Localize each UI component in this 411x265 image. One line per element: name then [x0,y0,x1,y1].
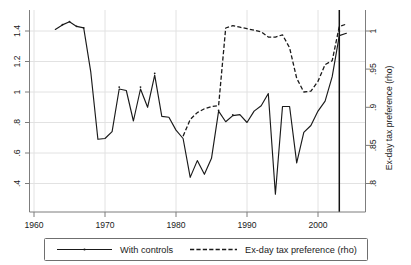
legend-label-with-controls: With controls [120,245,174,255]
chart-svg: 1.4 1.2 1 .8 .6 .4 1 .95 .9 .85 .8 Ex-da… [0,0,411,265]
data-point [69,21,71,23]
data-point [232,114,234,116]
chart-legend: With controls Ex-day tax preference (rho… [45,239,368,261]
secondary-y-axis-title: Ex-day tax preference (rho) [384,66,394,171]
y2tick-label: .85 [368,139,378,151]
data-point [83,27,85,29]
data-point [218,109,220,111]
legend-swatch-marker [83,248,85,250]
vertical-gridlines [34,10,318,212]
series-with-controls-line [55,22,346,194]
data-point [62,24,64,26]
ytick-label: 1.4 [12,25,22,37]
y2tick-label: 1 [368,28,378,33]
left-axis-ticks [25,31,30,184]
x-axis-tick-labels: 1960 1970 1980 1990 2000 [24,220,327,230]
ytick-label: .4 [12,180,22,187]
y2tick-label: .8 [368,180,378,187]
data-point [118,86,120,88]
right-axis-tick-labels: 1 .95 .9 .85 .8 [368,28,378,187]
chart-figure: 1.4 1.2 1 .8 .6 .4 1 .95 .9 .85 .8 Ex-da… [0,0,411,265]
axes [30,10,366,212]
y2tick-label: .95 [368,63,378,75]
series-with-controls [55,21,346,194]
series-ex-day-tax-preference [183,24,346,136]
xtick-label: 1980 [166,220,185,230]
left-axis-tick-labels: 1.4 1.2 1 .8 .6 .4 [12,25,22,187]
series-ex-day-tax-preference-line [183,24,346,136]
ytick-label: .8 [12,119,22,126]
data-point [154,72,156,74]
xtick-label: 1970 [95,220,114,230]
xtick-label: 2000 [308,220,327,230]
ytick-label: 1 [12,89,22,94]
ytick-label: .6 [12,149,22,156]
x-axis-ticks [34,212,318,217]
xtick-label: 1960 [24,220,43,230]
data-point [76,25,78,27]
xtick-label: 1990 [237,220,256,230]
data-point [140,86,142,88]
legend-label-ex-day-tax-preference: Ex-day tax preference (rho) [245,245,357,255]
y2tick-label: .9 [368,103,378,110]
ytick-label: 1.2 [12,55,22,67]
